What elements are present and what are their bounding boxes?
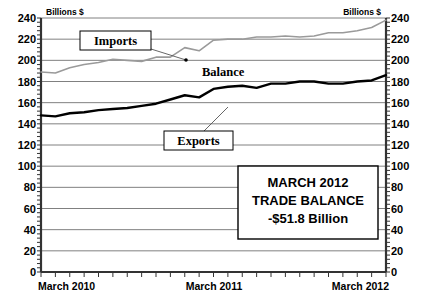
y-tick-label-left-40: 40: [24, 224, 36, 236]
y-minor-ticks-right: [386, 18, 390, 272]
y-tick-label-left-140: 140: [18, 118, 36, 130]
y-tick-labels-left: 020406080100120140160180200220240: [18, 12, 36, 278]
y-tick-label-right-140: 140: [391, 118, 409, 130]
y-tick-label-left-60: 60: [24, 203, 36, 215]
x-axis-label-mid: March 2011: [186, 280, 243, 292]
y-tick-label-left-120: 120: [18, 139, 36, 151]
y-tick-label-right-60: 60: [391, 203, 403, 215]
trade-balance-chart: 020406080100120140160180200220240 020406…: [0, 0, 431, 294]
y-axis-unit-label-right: Billions $: [343, 7, 381, 17]
y-minor-ticks-left: [37, 18, 41, 272]
imports-callout-endpoint: [184, 58, 188, 62]
y-tick-label-right-240: 240: [391, 12, 409, 24]
trade-balance-line2: TRADE BALANCE: [252, 193, 364, 208]
y-tick-label-left-180: 180: [18, 76, 36, 88]
y-tick-label-left-240: 240: [18, 12, 36, 24]
y-tick-label-left-220: 220: [18, 33, 36, 45]
balance-label: Balance: [202, 65, 245, 79]
y-tick-label-left-100: 100: [18, 160, 36, 172]
y-tick-label-right-80: 80: [391, 181, 403, 193]
y-tick-label-right-200: 200: [391, 54, 409, 66]
y-tick-label-right-40: 40: [391, 224, 403, 236]
y-tick-label-right-180: 180: [391, 76, 409, 88]
y-tick-label-right-20: 20: [391, 245, 403, 257]
y-tick-labels-right: 020406080100120140160180200220240: [391, 12, 409, 278]
trade-balance-line1: MARCH 2012: [268, 175, 349, 190]
y-tick-label-right-160: 160: [391, 97, 409, 109]
y-tick-label-left-160: 160: [18, 97, 36, 109]
x-axis-label-end: March 2012: [332, 280, 389, 292]
y-tick-label-left-200: 200: [18, 54, 36, 66]
chart-canvas: 020406080100120140160180200220240 020406…: [0, 0, 431, 294]
y-tick-label-right-120: 120: [391, 139, 409, 151]
y-axis-unit-label-left: Billions $: [46, 7, 84, 17]
y-tick-label-left-80: 80: [24, 181, 36, 193]
trade-balance-line3: -$51.8 Billion: [268, 211, 348, 226]
y-tick-label-right-0: 0: [391, 266, 397, 278]
y-tick-label-right-220: 220: [391, 33, 409, 45]
exports-label: Exports: [177, 134, 220, 148]
y-tick-label-left-0: 0: [30, 266, 36, 278]
y-tick-label-right-100: 100: [391, 160, 409, 172]
imports-label: Imports: [94, 34, 137, 48]
x-axis-label-start: March 2010: [38, 280, 95, 292]
y-tick-label-left-20: 20: [24, 245, 36, 257]
